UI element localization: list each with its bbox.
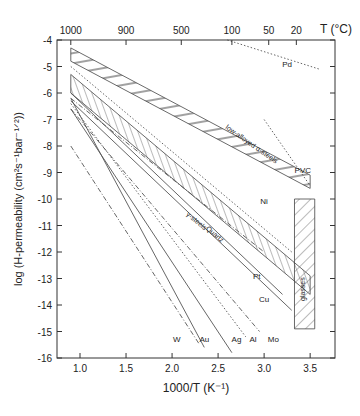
x-tick-label: 1.5 [119,363,133,374]
top-tick-label: 20 [291,25,303,36]
series-label: Ag [232,335,242,344]
y-tick-label: -8 [43,141,52,152]
series-line-pd [227,40,319,69]
y-tick-label: -10 [38,194,53,205]
series-label: Al [250,335,257,344]
band-glasses [294,199,314,329]
series-label: Au [199,335,209,344]
x-axis-title: 1000/T (K⁻¹) [163,381,229,395]
y-tick-label: -12 [38,247,53,258]
series-labels: PdPVCNiPtCuWAuAgAlMolow-alloyed α-steels… [173,60,311,345]
series-label: W [173,335,181,344]
y-tick-label: -14 [38,300,53,311]
series-label: Pd [282,60,292,69]
y-tick-label: -9 [43,168,52,179]
series-label: PVC [295,166,312,175]
y-tick-label: -13 [38,274,53,285]
plot-frame [57,40,335,358]
top-tick-label: 50 [263,25,275,36]
x-tick-label: 2.5 [211,363,225,374]
x-tick-label: 3.5 [303,363,317,374]
top-axis-title: T (°C) [320,22,352,36]
series-label: Ni [260,197,268,206]
series-label: Mo [268,335,280,344]
y-tick-label: -4 [43,35,52,46]
series-line-pt [71,93,283,294]
x-tick-label: 2.0 [165,363,179,374]
series-label: Quartz [204,225,226,245]
series-label: Pt [253,272,261,281]
y-axis-title: log (H-permeability (cm²s⁻¹bar⁻¹ᐟ²)) [12,112,24,286]
top-tick-label: 500 [173,25,190,36]
x-tick-label: 3.0 [257,363,271,374]
y-tick-label: -5 [43,62,52,73]
permeability-chart: 1.01.52.02.53.03.5-4-5-6-7-8-9-10-11-12-… [0,0,360,416]
series-label: glasses [299,277,307,301]
band--steels [71,74,310,294]
hatched-bands [71,48,315,329]
y-tick-label: -15 [38,327,53,338]
top-tick-label: 900 [118,25,135,36]
axes: 1.01.52.02.53.03.5-4-5-6-7-8-9-10-11-12-… [38,25,335,374]
series-label: Cu [259,295,269,304]
y-tick-label: -7 [43,115,52,126]
x-tick-label: 1.0 [73,363,87,374]
y-tick-label: -6 [43,88,52,99]
y-tick-label: -16 [38,353,53,364]
top-tick-label: 1000 [60,25,83,36]
y-tick-label: -11 [38,221,52,232]
top-tick-label: 100 [224,25,241,36]
